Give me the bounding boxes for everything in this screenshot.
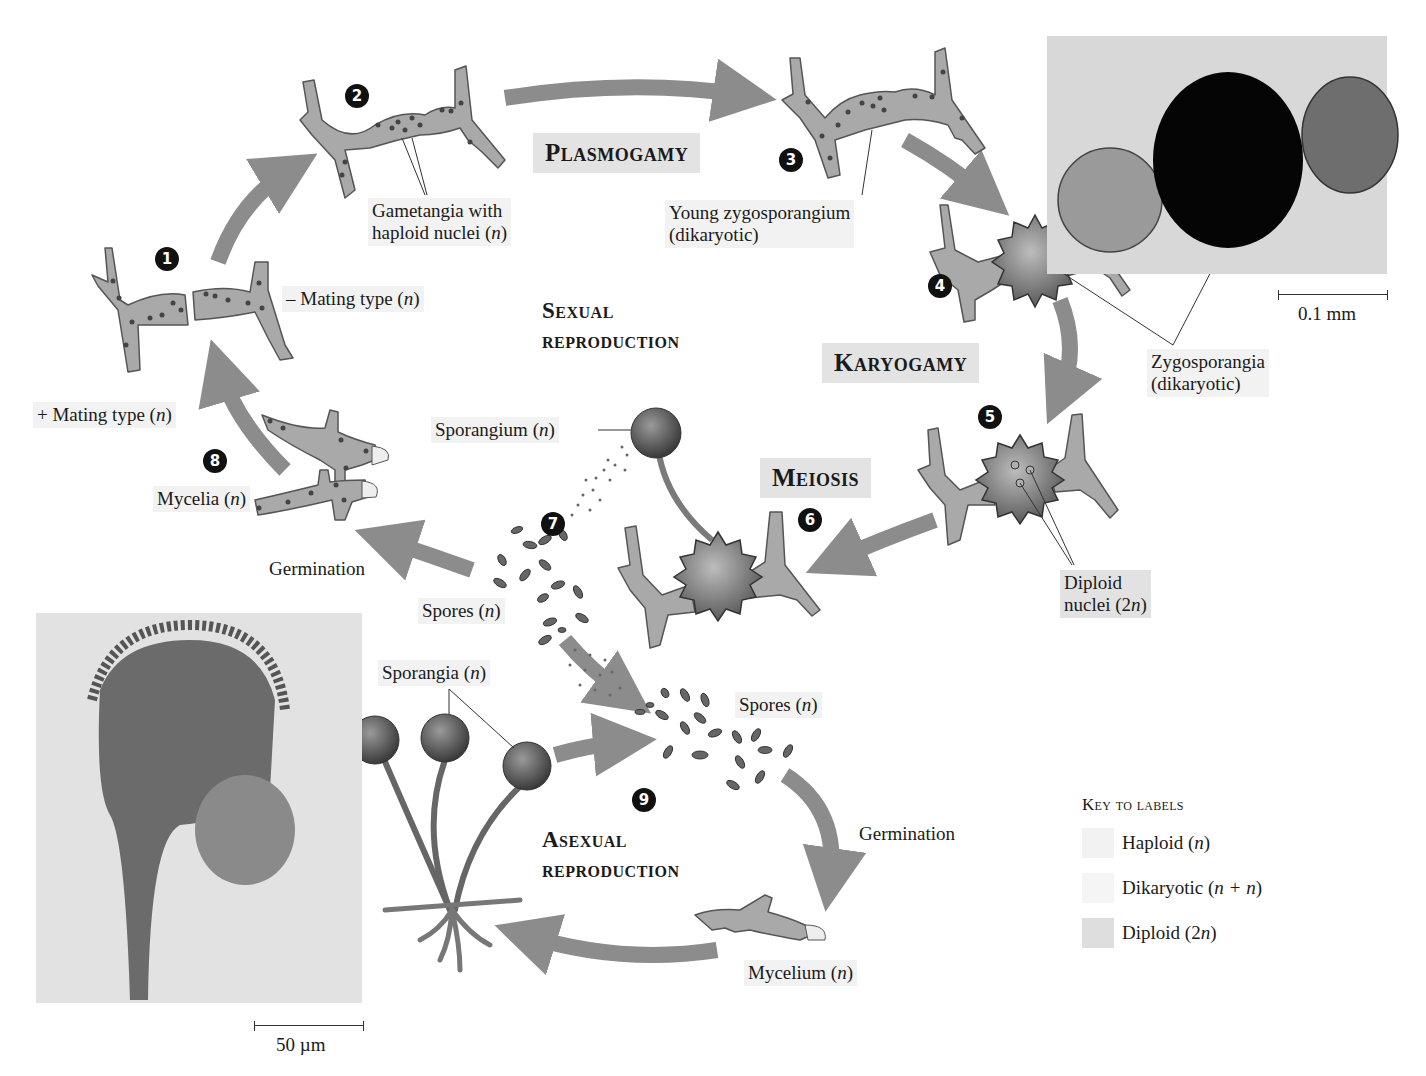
key-row-diploid: Diploid (2n) [1082, 918, 1216, 948]
key-label-dikaryotic: Dikaryotic (n + n) [1122, 877, 1262, 899]
label-sporangium: Sporangium (n) [431, 417, 559, 443]
arrow-5-to-6 [835, 520, 935, 560]
label-germination-sexual: Germination [265, 556, 369, 582]
label-mycelia: Mycelia (n) [153, 486, 250, 512]
step-3-badge: 3 [779, 148, 803, 172]
asexual-line2: reproduction [542, 855, 680, 885]
arrow-spores-down [565, 640, 625, 695]
diploid-swatch [1082, 918, 1114, 948]
life-cycle-drawing [0, 0, 1426, 1076]
label-spores-bottom: Spores (n) [735, 692, 822, 718]
step-1-badge: 1 [155, 247, 179, 271]
scale-text-bottom-left: 50 µm [276, 1034, 325, 1056]
step-4-badge: 4 [928, 274, 952, 298]
step-5-badge: 5 [978, 405, 1002, 429]
scale-text-top-right: 0.1 mm [1298, 303, 1356, 325]
arrow-7-to-germination [385, 540, 472, 570]
step-9-badge: 9 [632, 788, 656, 812]
sporangiophores [383, 757, 527, 910]
sexual-line1: Sexual [542, 296, 680, 326]
sporangium-micrograph [36, 613, 362, 1003]
stage-meiosis: Meiosis [760, 458, 871, 498]
hypha-step3 [782, 48, 985, 178]
label-gametangia: Gametangia with haploid nuclei (n) [368, 198, 511, 246]
label-minus-mating-type: – Mating type (n) [282, 286, 424, 312]
stage-sexual-reproduction: Sexual reproduction [542, 296, 680, 356]
arrow-spores-to-mycelium [785, 775, 832, 880]
label-sporangia: Sporangia (n) [378, 660, 490, 686]
step-6-badge: 6 [798, 508, 822, 532]
sporangia-heads [351, 714, 551, 790]
zygosporangia-line2: (dikaryotic) [1151, 373, 1265, 395]
hypha-step2 [300, 66, 505, 198]
stage-plasmogamy: Plasmogamy [533, 133, 700, 173]
haploid-swatch [1082, 828, 1114, 858]
key-label-diploid: Diploid (2n) [1122, 922, 1216, 944]
step-2-badge: 2 [345, 84, 369, 108]
label-mycelium: Mycelium (n) [744, 960, 857, 986]
scale-bar-top-right [1278, 290, 1388, 300]
arrow-4-to-5 [1060, 300, 1070, 395]
young-zygo-line2: (dikaryotic) [669, 224, 850, 246]
arrow-2-to-3 [505, 87, 745, 98]
label-plus-mating-type: + Mating type (n) [33, 402, 176, 428]
label-zygosporangia: Zygosporangia (dikaryotic) [1147, 349, 1269, 397]
step-8-badge: 8 [203, 449, 227, 473]
arrow-mycelium-to-sporangia [525, 935, 717, 955]
arrow-1-to-2 [218, 170, 290, 262]
label-spores-top: Spores (n) [418, 598, 505, 624]
diploid-line2: nuclei (2n) [1064, 594, 1147, 616]
stage-asexual-reproduction: Asexual reproduction [542, 825, 680, 885]
zygosporangia-micrograph [1047, 36, 1398, 274]
sporangium-step6 [631, 408, 681, 458]
label-young-zygosporangium: Young zygosporangium (dikaryotic) [665, 200, 854, 248]
arrow-sporangia-to-spores [555, 742, 625, 755]
label-diploid-nuclei: Diploid nuclei (2n) [1060, 570, 1151, 618]
diploid-line1: Diploid [1064, 572, 1147, 594]
stage-karyogamy: Karyogamy [822, 343, 979, 383]
zygosporangia-line1: Zygosporangia [1151, 351, 1265, 373]
step-7-badge: 7 [541, 512, 565, 536]
asexual-line1: Asexual [542, 825, 680, 855]
gametangia-line1: Gametangia with [372, 200, 507, 222]
rhizoids [385, 900, 520, 970]
dikaryotic-swatch [1082, 873, 1114, 903]
scale-bar-bottom-left [254, 1021, 364, 1031]
sexual-line2: reproduction [542, 326, 680, 356]
young-zygo-line1: Young zygosporangium [669, 202, 850, 224]
key-title: Key to labels [1082, 795, 1184, 815]
gametangia-line2: haploid nuclei (n) [372, 222, 507, 244]
label-germination-asexual: Germination [855, 821, 959, 847]
mycelium-step9 [695, 895, 812, 940]
key-row-haploid: Haploid (n) [1082, 828, 1210, 858]
key-label-haploid: Haploid (n) [1122, 832, 1210, 854]
key-row-dikaryotic: Dikaryotic (n + n) [1082, 873, 1262, 903]
